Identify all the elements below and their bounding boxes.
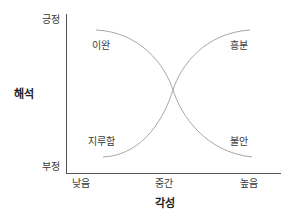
x-axis-tick-low: 낮음 [72, 178, 90, 190]
region-label-top-left: 이완 [92, 40, 110, 52]
y-axis-title: 해석 [14, 88, 34, 101]
curve-boredom-to-excitement [103, 30, 250, 157]
x-axis-tick-mid: 중간 [155, 178, 173, 190]
y-axis-bottom-label: 부정 [42, 161, 60, 173]
x-axis-title: 각성 [155, 197, 175, 210]
arousal-interpretation-diagram: 긍정 부정 해석 낮음 중간 높음 각성 이완 흥분 지루함 불안 [0, 0, 298, 223]
curve-relaxation-to-anxiety [96, 30, 252, 157]
region-label-bottom-right: 불안 [230, 136, 248, 148]
region-label-bottom-left: 지루함 [88, 136, 115, 148]
region-label-top-right: 흥분 [230, 40, 248, 52]
x-axis-tick-high: 높음 [240, 178, 258, 190]
y-axis-top-label: 긍정 [42, 14, 60, 26]
